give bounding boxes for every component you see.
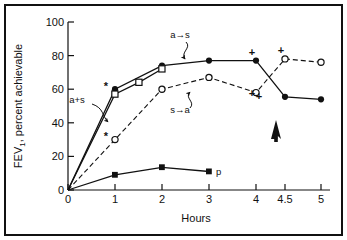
y-axis-title: FEV1, percent achievable — [12, 44, 27, 168]
series-annotation-a-to-s: a→s — [170, 29, 190, 59]
plus-at-4h-lower: + — [249, 87, 255, 99]
figure-container: 100 80 60 40 20 0 0 1 2 3 4 4.5 5 Hou — [0, 0, 347, 240]
x-tick-label-1: 1 — [112, 193, 118, 205]
y-axis-tick-labels: 100 80 60 40 20 0 — [46, 16, 64, 196]
series-label-p: p — [216, 166, 221, 177]
series-group — [68, 59, 321, 190]
series-label-s-to-a: s→a — [170, 104, 190, 115]
x-axis-ticks — [68, 184, 321, 190]
y-tick-label-40: 40 — [52, 117, 64, 129]
bold-up-arrow-marker — [271, 120, 281, 142]
markers-s-to-a — [112, 56, 324, 143]
y-axis-title-main: FEV — [12, 146, 24, 168]
asterisk-at-1h-lower: * — [104, 130, 109, 142]
series-annotation-s-to-a: s→a — [170, 92, 192, 115]
plus-at-45h-upper: + — [278, 44, 284, 56]
plus-at-4h-upper: + — [249, 46, 255, 58]
series-label-a-plus-s: a+s — [69, 94, 85, 105]
plus-at-4h-lower-2: + — [256, 90, 262, 102]
x-axis-title: Hours — [181, 212, 211, 224]
y-tick-label-100: 100 — [46, 16, 64, 28]
y-tick-label-60: 60 — [52, 83, 64, 95]
x-tick-label-4-5: 4.5 — [277, 193, 292, 205]
y-tick-label-0: 0 — [58, 184, 64, 196]
x-tick-label-4: 4 — [253, 193, 259, 205]
x-tick-label-5: 5 — [318, 193, 324, 205]
leader-a-to-s — [184, 42, 188, 59]
asterisk-at-1h-upper: * — [104, 80, 109, 92]
x-tick-label-0: 0 — [65, 193, 71, 205]
series-label-a-to-s: a→s — [170, 29, 190, 40]
x-tick-label-2: 2 — [159, 193, 165, 205]
x-tick-label-3: 3 — [206, 193, 212, 205]
x-axis-tick-labels: 0 1 2 3 4 4.5 5 — [65, 193, 324, 205]
chart-canvas: 100 80 60 40 20 0 0 1 2 3 4 4.5 5 Hou — [0, 0, 347, 240]
series-line-p — [68, 167, 209, 190]
y-axis-ticks — [68, 22, 74, 190]
y-tick-label-20: 20 — [52, 150, 64, 162]
y-tick-label-80: 80 — [52, 50, 64, 62]
svg-text:FEV1, percent achievable: FEV1, percent achievable — [12, 44, 27, 168]
y-axis-title-rest: , percent achievable — [12, 44, 24, 142]
